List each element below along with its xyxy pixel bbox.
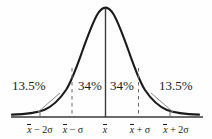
axis-label-mean-symbol: x xyxy=(103,125,107,135)
axis-label-minus-2sigma-mean: x xyxy=(27,125,31,135)
axis-label-minus-1sigma-mean: x xyxy=(63,125,67,135)
axis-label-plus-1sigma-mean: x xyxy=(130,125,134,135)
axis-label-minus-1sigma-rest: − σ xyxy=(67,124,83,135)
region-label-left-tail: 13.5% xyxy=(12,79,46,92)
region-label-right-tail: 13.5% xyxy=(159,79,193,92)
region-label-right-mid: 34% xyxy=(110,79,134,92)
axis-label-plus-2sigma: x + 2σ xyxy=(146,125,206,135)
axis-label-plus-2sigma-rest: + 2σ xyxy=(168,124,189,135)
curve-graphic xyxy=(0,0,212,139)
axis-label-plus-2sigma-mean: x xyxy=(163,125,167,135)
region-label-left-mid: 34% xyxy=(78,79,102,92)
normal-distribution-figure: 13.5% 34% 34% 13.5% x − 2σ x − σ x x + σ… xyxy=(0,0,212,139)
